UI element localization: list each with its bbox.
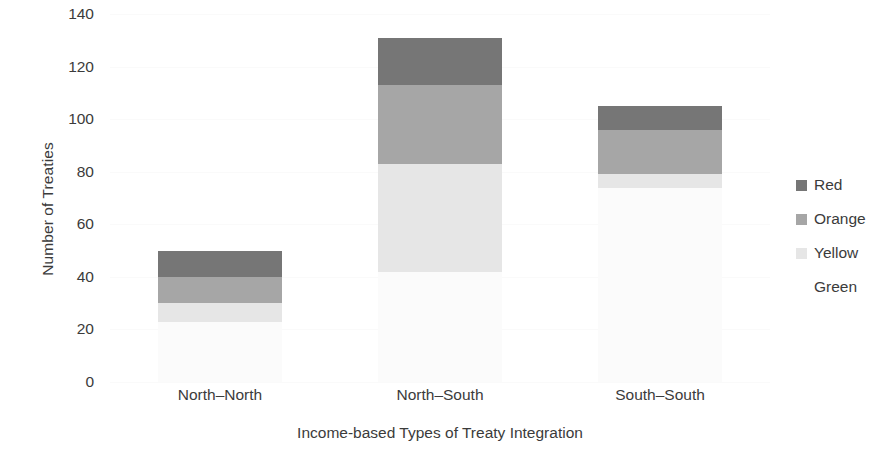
legend-swatch-icon	[796, 282, 807, 293]
stacked-bar[interactable]	[158, 251, 281, 382]
bar-segment-yellow[interactable]	[158, 303, 281, 321]
bar-group	[378, 14, 501, 382]
legend-label: Yellow	[814, 244, 858, 262]
legend-swatch-icon	[796, 180, 807, 191]
bar-segment-yellow[interactable]	[378, 164, 501, 272]
bar-segment-red[interactable]	[598, 106, 721, 130]
stacked-bar[interactable]	[598, 106, 721, 382]
bar-segment-orange[interactable]	[598, 130, 721, 175]
bar-segment-orange[interactable]	[378, 85, 501, 164]
legend-label: Orange	[814, 210, 866, 228]
y-axis-tick-label: 120	[0, 58, 94, 76]
x-axis-tick-label: North–South	[396, 386, 483, 404]
x-axis-title: Income-based Types of Treaty Integration	[110, 424, 770, 442]
y-axis-tick-label: 40	[0, 268, 94, 286]
bar-segment-orange[interactable]	[158, 277, 281, 303]
y-axis-tick-label: 140	[0, 5, 94, 23]
legend-label: Red	[814, 176, 842, 194]
legend-swatch-icon	[796, 248, 807, 259]
bar-segment-yellow[interactable]	[598, 174, 721, 187]
bar-segment-green[interactable]	[158, 322, 281, 382]
plot-area	[110, 14, 770, 382]
y-axis-tick-label: 20	[0, 320, 94, 338]
bar-segment-green[interactable]	[378, 272, 501, 382]
x-axis-tick-label: North–North	[178, 386, 262, 404]
bar-group	[598, 14, 721, 382]
bar-segment-green[interactable]	[598, 188, 721, 383]
legend-item-orange[interactable]: Orange	[796, 204, 874, 234]
y-axis-tick-labels: 020406080100120140	[0, 0, 108, 449]
chart-legend: RedOrangeYellowGreen	[796, 170, 874, 306]
x-axis-tick-label: South–South	[615, 386, 705, 404]
y-axis-tick-label: 80	[0, 163, 94, 181]
x-axis-tick-labels: North–NorthNorth–SouthSouth–South	[110, 386, 770, 412]
gridline	[110, 382, 770, 383]
bar-group	[158, 14, 281, 382]
stacked-bar[interactable]	[378, 38, 501, 382]
legend-swatch-icon	[796, 214, 807, 225]
legend-item-green[interactable]: Green	[796, 272, 874, 302]
bar-segment-red[interactable]	[158, 251, 281, 277]
stacked-bar-chart: Number of Treaties 020406080100120140 No…	[0, 0, 874, 449]
legend-item-yellow[interactable]: Yellow	[796, 238, 874, 268]
y-axis-tick-label: 0	[0, 373, 94, 391]
legend-item-red[interactable]: Red	[796, 170, 874, 200]
y-axis-tick-label: 60	[0, 215, 94, 233]
bar-segment-red[interactable]	[378, 38, 501, 85]
legend-label: Green	[814, 278, 857, 296]
bars-layer	[110, 14, 770, 382]
y-axis-tick-label: 100	[0, 110, 94, 128]
